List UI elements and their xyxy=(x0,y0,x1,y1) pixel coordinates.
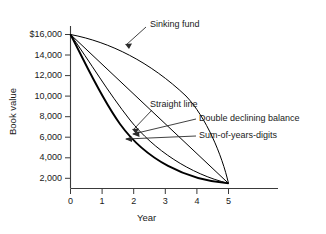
y-tick-label-4000: 4,000 xyxy=(10,153,62,162)
y-tick-label-12000: 12,000 xyxy=(10,71,62,80)
annotation-straight-line: Straight line xyxy=(150,100,198,109)
x-tick-label-5: 5 xyxy=(219,197,239,206)
x-tick-label-4: 4 xyxy=(187,197,207,206)
x-axis-ticks xyxy=(71,189,229,195)
y-axis-title: Book value xyxy=(8,88,18,135)
x-tick-label-0: 0 xyxy=(61,197,81,206)
annotation-double-declining-balance: Double declining balance xyxy=(199,114,300,123)
x-tick-label-3: 3 xyxy=(155,197,175,206)
y-tick-label-16000: $16,000 xyxy=(10,30,62,39)
x-axis-title: Year xyxy=(137,213,156,223)
annotation-sinking-fund: Sinking fund xyxy=(150,20,200,29)
x-tick-label-2: 2 xyxy=(124,197,144,206)
y-tick-label-14000: 14,000 xyxy=(10,51,62,60)
leader-double-declining-balance xyxy=(132,119,196,137)
y-axis-ticks xyxy=(65,35,71,179)
depreciation-book-value-chart: $16,000 14,000 12,000 10,000 8,000 6,000… xyxy=(0,0,326,234)
annotation-sum-of-years-digits: Sum-of-years-digits xyxy=(199,131,277,140)
leader-sinking-fund xyxy=(125,27,146,49)
y-tick-label-2000: 2,000 xyxy=(10,174,62,183)
x-tick-label-1: 1 xyxy=(92,197,112,206)
